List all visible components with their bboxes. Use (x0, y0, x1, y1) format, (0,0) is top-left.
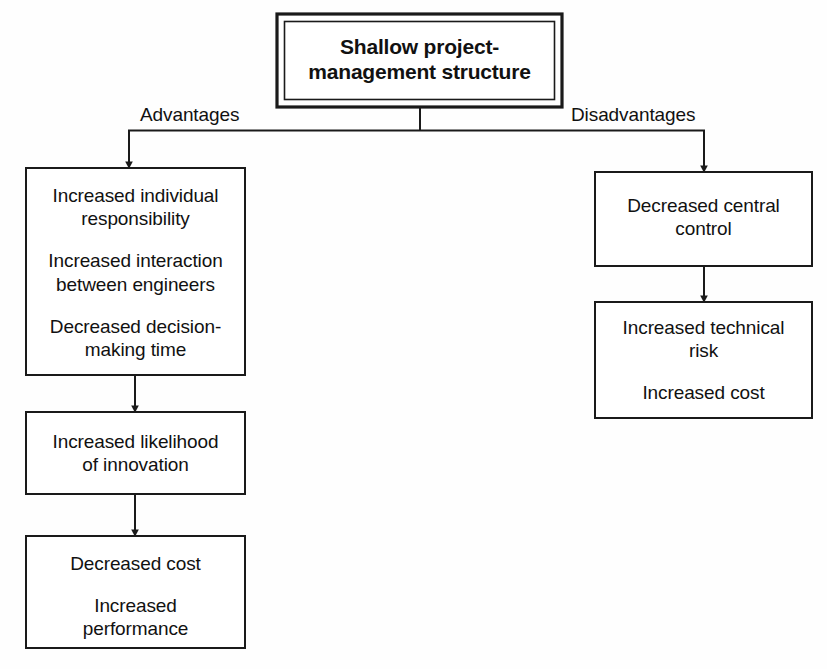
advantages-item-5: Decreased cost (26, 552, 245, 575)
advantages-box-1[interactable]: Increased individualresponsibility Incre… (26, 168, 245, 375)
advantages-item-4: Increased likelihoodof innovation (26, 430, 245, 476)
advantages-box-1-text: Increased individualresponsibility Incre… (26, 184, 245, 361)
disadvantages-box-2-text: Increased technicalrisk Increased cost (595, 316, 812, 405)
branch-label-disadvantages: Disadvantages (571, 104, 695, 126)
advantages-item-2: Increased interactionbetween engineers (26, 249, 245, 295)
advantages-box-3-text: Decreased cost Increasedperformance (26, 552, 245, 641)
title-box-text: Shallow project- management structure (277, 34, 562, 84)
title-box[interactable]: Shallow project- management structure (277, 14, 562, 107)
disadvantages-box-2[interactable]: Increased technicalrisk Increased cost (595, 302, 812, 418)
advantages-item-3: Decreased decision-making time (26, 315, 245, 361)
advantages-box-2[interactable]: Increased likelihoodof innovation (26, 412, 245, 494)
title-line-1: Shallow project- (277, 34, 562, 59)
disadvantages-box-1-text: Decreased centralcontrol (595, 194, 812, 240)
advantages-item-1: Increased individualresponsibility (26, 184, 245, 230)
branch-label-advantages: Advantages (140, 104, 239, 126)
disadvantages-box-1[interactable]: Decreased centralcontrol (595, 172, 812, 266)
disadvantages-item-3: Increased cost (595, 381, 812, 404)
advantages-item-6: Increasedperformance (26, 594, 245, 640)
disadvantages-item-1: Decreased centralcontrol (595, 194, 812, 240)
disadvantages-item-2: Increased technicalrisk (595, 316, 812, 362)
flowchart-canvas: Shallow project- management structure Ad… (0, 0, 827, 669)
title-line-2: management structure (277, 59, 562, 84)
advantages-box-2-text: Increased likelihoodof innovation (26, 430, 245, 476)
advantages-box-3[interactable]: Decreased cost Increasedperformance (26, 536, 245, 648)
